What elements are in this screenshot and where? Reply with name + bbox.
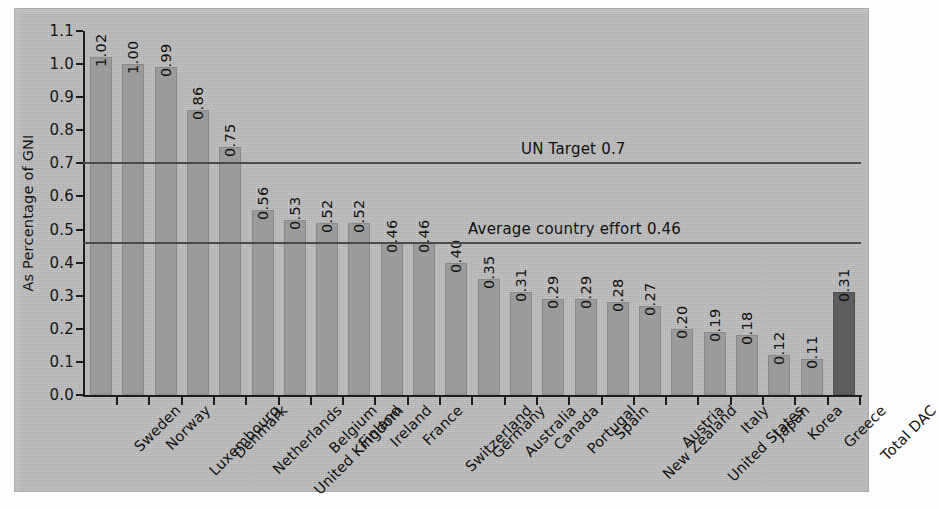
y-axis-tick-label: 0.4	[50, 254, 74, 272]
y-axis-tick	[76, 262, 83, 264]
x-axis-tick	[245, 395, 247, 405]
bar-value-label: 0.40	[448, 239, 464, 273]
y-axis-tick-label: 0.7	[50, 154, 74, 172]
bar-value-label: 0.28	[610, 279, 626, 313]
y-axis-tick-label: 0.8	[50, 121, 74, 139]
reference-line	[83, 162, 861, 164]
bar-value-label: 1.02	[93, 34, 109, 68]
x-axis-tick	[827, 395, 829, 405]
bar-value-label: 0.12	[771, 332, 787, 366]
y-axis-tick-label: 0.9	[50, 88, 74, 106]
x-axis-tick	[407, 395, 409, 405]
bar	[122, 64, 144, 395]
bar-value-label: 1.00	[125, 41, 141, 75]
bar-value-label: 0.11	[804, 335, 820, 369]
y-axis-tick-label: 1.1	[50, 22, 74, 40]
bar-value-label: 0.27	[642, 282, 658, 316]
bar	[381, 243, 403, 395]
reference-line-label: Average country effort 0.46	[468, 220, 681, 238]
x-axis-tick	[342, 395, 344, 405]
bar	[542, 299, 564, 395]
bar-value-label: 0.19	[707, 309, 723, 343]
y-axis-tick	[76, 394, 83, 396]
x-axis-tick	[665, 395, 667, 405]
bar	[155, 67, 177, 395]
bar-value-label: 0.99	[158, 44, 174, 78]
x-axis-tick	[697, 395, 699, 405]
y-axis-tick	[76, 63, 83, 65]
y-axis-title: As Percentage of GNI	[18, 31, 38, 395]
bar-value-label: 0.53	[287, 196, 303, 230]
bar-value-label: 0.31	[836, 269, 852, 303]
bar	[607, 302, 629, 395]
y-axis-tick	[76, 229, 83, 231]
y-axis-tick	[76, 30, 83, 32]
bar	[445, 263, 467, 395]
bar	[252, 210, 274, 395]
y-axis-tick-label: 0.6	[50, 187, 74, 205]
bar	[348, 223, 370, 395]
plot-area: 0.00.10.20.30.40.50.60.70.80.91.01.1 1.0…	[83, 31, 861, 395]
bar-value-label: 0.18	[739, 312, 755, 346]
y-axis-tick	[76, 295, 83, 297]
y-axis-tick	[76, 361, 83, 363]
y-axis-tick	[76, 162, 83, 164]
bar	[219, 147, 241, 395]
bar	[575, 299, 597, 395]
y-axis-tick	[76, 129, 83, 131]
bar-value-label: 0.35	[481, 256, 497, 290]
bar-value-label: 0.86	[190, 87, 206, 121]
x-axis-tick	[504, 395, 506, 405]
bar	[639, 306, 661, 395]
bar	[316, 223, 338, 395]
y-axis-tick-label: 0.0	[50, 386, 74, 404]
bar	[510, 292, 532, 395]
bar	[478, 279, 500, 395]
y-axis-tick-label: 0.5	[50, 221, 74, 239]
x-axis-tick	[633, 395, 635, 405]
bar-value-label: 0.20	[674, 305, 690, 339]
y-axis-tick-label: 0.1	[50, 353, 74, 371]
bar-value-label: 0.52	[351, 199, 367, 233]
y-axis-tick-label: 0.3	[50, 287, 74, 305]
x-axis-tick	[374, 395, 376, 405]
bar-value-label: 0.56	[255, 186, 271, 220]
x-axis-tick	[601, 395, 603, 405]
bar-value-label: 0.75	[222, 123, 238, 157]
x-axis-tick	[310, 395, 312, 405]
x-axis-tick	[859, 395, 861, 405]
bar	[187, 110, 209, 395]
y-axis-tick-label: 1.0	[50, 55, 74, 73]
y-axis-tick	[76, 328, 83, 330]
x-axis-tick	[148, 395, 150, 405]
bar-value-label: 0.31	[513, 269, 529, 303]
bar-value-label: 0.52	[319, 199, 335, 233]
reference-line-label: UN Target 0.7	[521, 140, 626, 158]
bar	[413, 243, 435, 395]
y-axis-title-text: As Percentage of GNI	[20, 134, 36, 291]
x-axis-tick	[116, 395, 118, 405]
y-axis-tick	[76, 195, 83, 197]
y-axis-tick-label: 0.2	[50, 320, 74, 338]
bar	[284, 220, 306, 395]
y-axis-tick	[76, 96, 83, 98]
bar	[90, 57, 112, 395]
reference-line	[83, 242, 861, 244]
x-axis-tick	[181, 395, 183, 405]
bar-value-label: 0.46	[384, 219, 400, 253]
bar-value-label: 0.46	[416, 219, 432, 253]
bar-value-label: 0.29	[578, 276, 594, 310]
bar-value-label: 0.29	[545, 276, 561, 310]
x-axis-tick	[439, 395, 441, 405]
x-axis-tick	[471, 395, 473, 405]
x-axis-tick	[213, 395, 215, 405]
bar	[833, 292, 855, 395]
